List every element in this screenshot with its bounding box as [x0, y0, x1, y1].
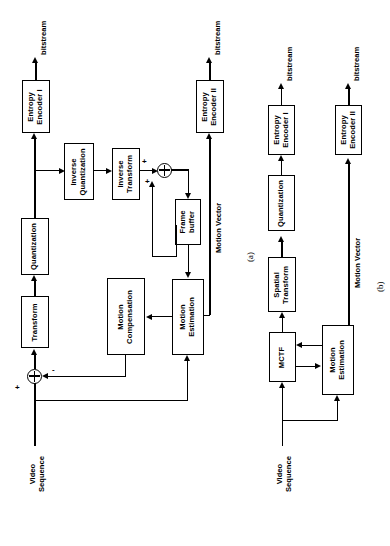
line-mctf-to-me-b: [296, 366, 316, 367]
block-label: Frame buffer: [179, 210, 197, 233]
arrowhead-quant-to-ee1-b: [278, 155, 284, 161]
line-input-branch-to-me-b: [282, 420, 338, 421]
block-label: Entropy Encoder II: [201, 88, 219, 126]
block-entropy-encoder-2-a: Entropy Encoder II: [196, 80, 224, 133]
label-bitstream-1-a: bitstream: [39, 21, 48, 55]
arrowhead-transform-to-quant-a: [31, 275, 37, 281]
block-inverse-transform-a: Inverse Transform: [112, 148, 140, 200]
arrowhead-input-to-me-b: [334, 395, 340, 401]
label-bitstream-2-a: bitstream: [213, 21, 222, 55]
line-me-to-mv-a: [204, 315, 210, 316]
arrowhead-ee1-out-b: [278, 83, 284, 89]
line-mv-to-ee2-b: [348, 164, 349, 326]
block-label: MCTF: [278, 346, 287, 368]
caption-b: (b): [375, 282, 386, 293]
line-input-to-mctf-b: [282, 388, 283, 446]
sign-minus-a: -: [52, 366, 55, 374]
arrowhead-ee1-out-a: [32, 57, 38, 63]
arrowhead-input-to-mctf-b: [279, 382, 285, 388]
arrowhead-fb-feedback-to-adder-a: [149, 181, 155, 187]
block-label: Motion Estimation: [329, 340, 347, 380]
block-label: Motion Estimation: [179, 297, 197, 337]
line-mctf-to-spatial-b: [282, 318, 283, 333]
line-ee2-out-b: [348, 88, 349, 105]
block-label: Quantization: [277, 179, 286, 226]
block-motion-estimation-b: Motion Estimation: [322, 325, 354, 395]
block-inverse-quantization-a: Inverse Quantization: [64, 143, 94, 200]
line-adder-down-a: [188, 169, 189, 193]
line-input-branch-to-me-a: [34, 400, 188, 401]
sign-plus-adder2-top-a: +: [142, 158, 147, 166]
line-spatial-to-quant-b: [281, 242, 282, 258]
arrowhead-mv-to-ee2-b: [345, 158, 351, 164]
block-label: Inverse Transform: [117, 155, 135, 193]
arrowhead-me-to-mctf-b: [296, 342, 302, 348]
label-video-sequence-b: Video Sequence: [275, 456, 293, 492]
arrowhead-mv-to-ee2-a: [206, 133, 212, 139]
block-label: Entropy Encoder I: [27, 89, 45, 125]
line-quant-to-ee1-a: [34, 139, 35, 219]
block-label: Motion Compensation: [117, 290, 135, 344]
block-label: Entropy Encoder I: [273, 112, 291, 148]
block-spatial-transform-b: Spatial Transform: [268, 257, 296, 312]
line-transform-to-quant-a: [34, 281, 35, 297]
line-input-branch-up-me-a: [187, 361, 188, 401]
block-entropy-encoder-1-a: Entropy Encoder I: [22, 80, 50, 133]
block-quantization-a: Quantization: [21, 218, 49, 275]
line-fb-feedback-left-a: [152, 256, 176, 257]
block-entropy-encoder-2-b: Entropy Encoder II: [335, 105, 362, 155]
label-video-sequence-a: Video Sequence: [28, 456, 46, 492]
adder-circle-a: [157, 163, 172, 178]
arrowhead-framebuffer-to-me-a: [185, 272, 191, 278]
line-mc-out-down-a: [125, 355, 126, 377]
arrowhead-mc-to-subtractor-a: [42, 373, 48, 379]
line-ee1-out-b: [281, 88, 282, 105]
block-label: Spatial Transform: [273, 265, 291, 303]
arrowhead-ee2-out-b: [345, 83, 351, 89]
line-framebuffer-to-me-a: [188, 245, 189, 273]
sign-plus-a: +: [15, 384, 20, 392]
arrowhead-mctf-to-spatial-b: [279, 312, 285, 318]
label-bitstream-2-b: bitstream: [352, 47, 361, 81]
arrowhead-me-to-mc-a: [146, 314, 152, 320]
label-motion-vector-a: Motion Vector: [214, 203, 223, 253]
block-label: Inverse Quantization: [70, 148, 88, 195]
caption-a: (a): [245, 252, 256, 262]
line-me-to-mc-a: [152, 316, 173, 317]
line-input-to-subtractor-a: [34, 383, 35, 446]
block-label: Quantization: [31, 223, 40, 270]
block-label: Transform: [31, 303, 40, 341]
block-entropy-encoder-1-b: Entropy Encoder I: [268, 105, 295, 155]
label-motion-vector-b: Motion Vector: [353, 238, 362, 288]
line-ee2-out-a: [209, 62, 210, 80]
line-fb-feedback-up-a: [152, 187, 153, 256]
block-motion-estimation-a: Motion Estimation: [172, 279, 204, 355]
figure-canvas: Entropy Encoder I bitstream Quantization…: [0, 0, 390, 546]
subtractor-circle-a: [27, 369, 42, 384]
arrowhead-ee2-out-a: [206, 57, 212, 63]
line-adder-right-a: [171, 169, 189, 170]
arrowhead-spatial-to-quant-b: [278, 236, 284, 242]
label-bitstream-1-b: bitstream: [285, 47, 294, 81]
line-ee1-out-a: [35, 62, 36, 80]
line-fb-feedback-down-a: [176, 225, 177, 257]
line-subtractor-to-transform-a: [34, 355, 35, 369]
line-input-branch-up-me-b: [337, 401, 338, 421]
arrowhead-quant-to-ee1-a: [31, 133, 37, 139]
line-mc-out-left-a: [48, 376, 126, 377]
line-me-to-mctf-b: [302, 345, 323, 346]
arrowhead-input-to-me-a: [184, 355, 190, 361]
arrowhead-subtractor-to-transform-a: [31, 349, 37, 355]
block-frame-buffer-a: Frame buffer: [175, 199, 201, 245]
block-transform-a: Transform: [21, 296, 49, 348]
line-quant-to-ee1-b: [281, 161, 282, 176]
block-quantization-b: Quantization: [268, 175, 295, 231]
block-label: Entropy Encoder II: [340, 111, 358, 149]
block-motion-compensation-a: Motion Compensation: [107, 278, 145, 355]
block-mctf-b: MCTF: [269, 332, 296, 382]
arrowhead-mctf-to-me-b: [315, 363, 321, 369]
line-mv-to-ee2-a: [209, 139, 210, 315]
